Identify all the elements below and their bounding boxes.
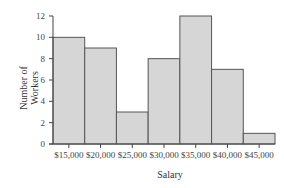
histogram-chart: 024681012 $15,000$20,000$25,000$30,000$3… <box>0 0 284 188</box>
x-tick-label: $30,000 <box>149 150 179 160</box>
bars-group <box>53 16 275 144</box>
x-tick-label: $40,000 <box>213 150 243 160</box>
histogram-bar <box>53 37 85 144</box>
y-tick-label: 12 <box>36 11 45 21</box>
histogram-bar <box>180 16 212 144</box>
x-tick-label: $20,000 <box>86 150 116 160</box>
x-tick-label: $45,000 <box>245 150 275 160</box>
x-axis-title: Salary <box>157 169 183 180</box>
histogram-bar <box>116 112 148 144</box>
histogram-bar <box>243 133 275 144</box>
y-axis-title-line1: Number of <box>18 66 29 110</box>
x-tick-label: $15,000 <box>54 150 84 160</box>
histogram-bar <box>85 48 117 144</box>
y-tick-label: 10 <box>36 32 46 42</box>
y-tick-label: 2 <box>41 118 46 128</box>
y-tick-label: 4 <box>41 96 46 106</box>
y-tick-label: 0 <box>41 139 46 149</box>
y-tick-label: 8 <box>41 54 46 64</box>
y-axis-title-line2: Workers <box>29 71 40 105</box>
x-tick-label: $25,000 <box>118 150 148 160</box>
histogram-bar <box>148 59 180 144</box>
y-tick-label: 6 <box>41 75 46 85</box>
x-tick-label: $35,000 <box>181 150 211 160</box>
histogram-bar <box>212 69 244 144</box>
x-axis: $15,000$20,000$25,000$30,000$35,000$40,0… <box>49 144 275 160</box>
